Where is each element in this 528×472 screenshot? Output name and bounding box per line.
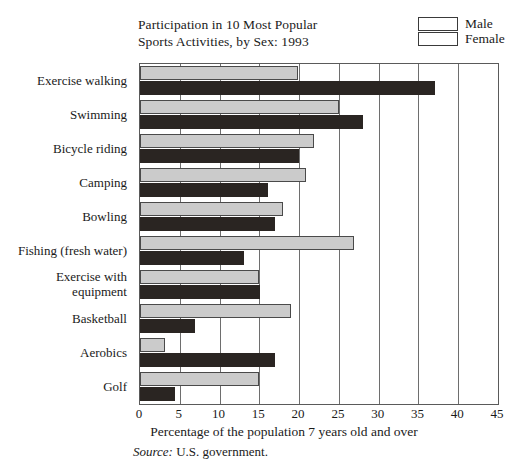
bar-male-6	[140, 270, 259, 284]
bar-female-7	[140, 319, 195, 333]
bar-male-3	[140, 168, 306, 182]
category-label-5: Fishing (fresh water)	[18, 243, 127, 258]
legend-item-female: Female	[418, 31, 505, 46]
source-prefix: Source:	[133, 444, 173, 459]
category-label-7: Basketball	[72, 311, 127, 326]
bar-female-6	[140, 285, 260, 299]
x-tick-45: 45	[491, 406, 504, 422]
x-tick-5: 5	[176, 406, 183, 422]
legend-swatch-male	[418, 17, 458, 31]
category-label-6: Exercise with equipment	[56, 269, 127, 299]
x-tick-35: 35	[411, 406, 424, 422]
bar-female-2	[140, 149, 299, 163]
chart-title: Participation in 10 Most Popular Sports …	[138, 17, 317, 50]
legend-label-male: Male	[465, 17, 493, 31]
bar-male-2	[140, 134, 314, 148]
bar-male-4	[140, 202, 283, 216]
y-axis-category-labels: Exercise walkingSwimmingBicycle ridingCa…	[0, 63, 133, 403]
source-note: Source: U.S. government.	[133, 444, 268, 460]
legend-item-male: Male	[418, 16, 505, 31]
bar-male-7	[140, 304, 291, 318]
category-label-3: Camping	[79, 175, 127, 190]
category-label-0: Exercise walking	[37, 73, 127, 88]
bar-female-9	[140, 387, 175, 401]
x-tick-25: 25	[331, 406, 344, 422]
legend-label-female: Female	[465, 32, 505, 46]
x-tick-40: 40	[451, 406, 464, 422]
x-axis-ticks: 051015202530354045	[139, 406, 497, 422]
bar-female-0	[140, 81, 435, 95]
bar-female-3	[140, 183, 268, 197]
legend-swatch-female	[418, 32, 458, 46]
bar-male-8	[140, 338, 165, 352]
category-label-4: Bowling	[82, 209, 127, 224]
x-tick-0: 0	[136, 406, 143, 422]
x-tick-15: 15	[252, 406, 265, 422]
category-label-8: Aerobics	[80, 345, 127, 360]
bar-male-0	[140, 66, 298, 80]
x-tick-20: 20	[292, 406, 305, 422]
x-axis-label: Percentage of the population 7 years old…	[0, 424, 528, 440]
bar-female-8	[140, 353, 275, 367]
bar-male-9	[140, 372, 259, 386]
x-tick-30: 30	[371, 406, 384, 422]
source-text: U.S. government.	[176, 444, 268, 459]
plot-area	[139, 63, 499, 405]
bar-female-1	[140, 115, 363, 129]
x-tick-10: 10	[212, 406, 225, 422]
bar-male-1	[140, 100, 339, 114]
category-label-1: Swimming	[70, 107, 127, 122]
category-label-2: Bicycle riding	[53, 141, 127, 156]
chart-figure: Participation in 10 Most Popular Sports …	[0, 0, 528, 472]
chart-legend: Male Female	[418, 16, 505, 46]
bar-female-5	[140, 251, 244, 265]
category-label-9: Golf	[103, 379, 127, 394]
bar-male-5	[140, 236, 354, 250]
bar-female-4	[140, 217, 275, 231]
bar-series-container	[140, 64, 498, 404]
